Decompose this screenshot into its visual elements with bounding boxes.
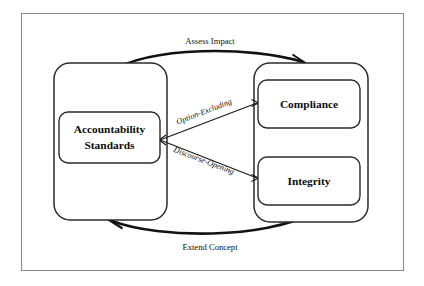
diagram-canvas: Assess Impact Extend Concept Accountabil… [0, 0, 424, 286]
node-label-integrity: Integrity [287, 175, 330, 187]
node-label-accountability-standards-line1: Accountability [74, 123, 146, 135]
edge-label-assess-impact: Assess Impact [185, 36, 235, 46]
edge-label-extend-concept: Extend Concept [182, 242, 238, 252]
node-accountability-standards[interactable] [59, 112, 160, 163]
node-label-compliance: Compliance [280, 98, 338, 110]
node-label-accountability-standards-line2: Standards [84, 139, 135, 151]
diagram-svg: Assess Impact Extend Concept Accountabil… [0, 0, 424, 286]
